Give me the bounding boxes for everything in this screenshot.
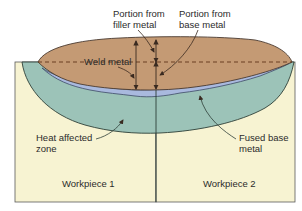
label-line: base metal [179,19,231,30]
label-line: Portion from [179,8,231,19]
label-line: Fused base [239,132,289,143]
weld-cross-section-diagram [0,0,302,211]
label-line: filler metal [113,19,165,30]
label-workpiece-2: Workpiece 2 [203,178,256,189]
label-fused-base-metal: Fused base metal [239,132,289,154]
label-line: Heat affected [36,132,92,143]
label-portion-from-base-metal: Portion from base metal [179,8,231,30]
label-line: metal [239,143,289,154]
label-workpiece-1: Workpiece 1 [62,178,115,189]
label-heat-affected-zone: Heat affected zone [36,132,92,154]
label-weld-metal: Weld metal [84,56,131,67]
label-portion-from-filler-metal: Portion from filler metal [113,8,165,30]
label-line: Portion from [113,8,165,19]
label-line: zone [36,143,92,154]
